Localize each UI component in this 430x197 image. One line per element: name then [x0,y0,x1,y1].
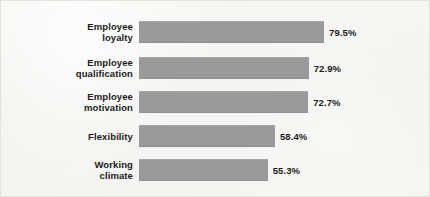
bar-value-label: 58.4% [280,131,307,142]
bar-track: 79.5% [139,21,423,43]
bar-value-label: 79.5% [329,27,356,38]
bar-row: Employee motivation 72.7% [1,91,429,113]
bar-chart-figure: Employee loyalty 79.5% Employee qualific… [0,0,430,197]
bar-fill [139,125,275,147]
bar-fill [139,159,268,181]
bar-fill [139,57,309,79]
bar-value-label: 72.7% [313,97,340,108]
bar-row: Employee loyalty 79.5% [1,21,429,43]
bar-fill [139,91,308,113]
bar-track: 55.3% [139,159,423,181]
bar-track: 72.7% [139,91,423,113]
category-label: Employee loyalty [13,21,133,43]
plot-area: Employee loyalty 79.5% Employee qualific… [1,1,429,196]
category-label: Employee motivation [13,91,133,113]
bar-row: Flexibility 58.4% [1,125,429,147]
bar-row: Working climate 55.3% [1,159,429,181]
category-label: Flexibility [13,131,133,142]
category-label: Employee qualification [13,57,133,79]
bar-track: 58.4% [139,125,423,147]
bar-row: Employee qualification 72.9% [1,57,429,79]
bar-track: 72.9% [139,57,423,79]
bar-fill [139,21,324,43]
bar-value-label: 55.3% [273,165,300,176]
bar-value-label: 72.9% [314,63,341,74]
category-label: Working climate [13,159,133,181]
